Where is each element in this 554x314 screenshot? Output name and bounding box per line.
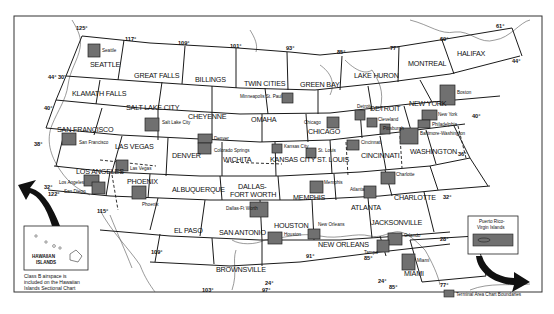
svg-text:Islands Sectional Chart: Islands Sectional Chart — [24, 285, 76, 291]
tac-label: St. Louis — [318, 148, 337, 153]
legend-swatch — [444, 290, 454, 297]
sectional-label: JACKSONVILLE — [371, 218, 423, 227]
tac-label: Charlotte — [396, 172, 415, 177]
sectional-label: LOS ANGELES — [76, 167, 124, 176]
legend-label: Terminal Area Chart Boundaries — [456, 292, 522, 297]
tac-miami[interactable] — [402, 254, 415, 270]
tac-label: Colorado Springs — [214, 148, 250, 153]
degree-label: 117° — [125, 36, 136, 42]
sectional-label: GREEN BAY — [300, 80, 340, 89]
tac-label: Atlanta — [350, 187, 365, 192]
sectional-label: ATLANTA — [351, 203, 381, 212]
tac-new-york[interactable] — [422, 110, 437, 120]
sectional-label: CHICAGO — [308, 127, 341, 136]
tac-label: Cleveland — [378, 117, 399, 122]
tac-phoenix[interactable] — [132, 186, 146, 199]
tac-label: New Orleans — [318, 222, 345, 227]
sectional-label: CINCINNATI — [361, 151, 400, 160]
sectional-label: SAN ANTONIO — [219, 228, 266, 237]
degree-label: 40° — [44, 105, 52, 111]
sectional-label: KANSAS CITY — [270, 155, 316, 164]
degree-label: 125° — [76, 25, 88, 31]
degree-label: 32° — [44, 184, 52, 190]
chart-coverage-map: SEATTLE GREAT FALLS BILLINGS TWIN CITIES… — [0, 0, 554, 314]
tac-minneapolis[interactable] — [282, 93, 293, 103]
sectional-label: BROWNSVILLE — [216, 265, 266, 274]
degree-label: 85° — [389, 284, 397, 290]
sectional-label: OMAHA — [251, 115, 277, 124]
sectional-label: LAKE HURON — [354, 71, 399, 80]
tac-salt-lake-city[interactable] — [145, 118, 159, 131]
degree-label: 101° — [230, 43, 242, 49]
degree-label: 40° — [472, 113, 480, 119]
sectional-label: KLAMATH FALLS — [72, 89, 127, 98]
tac-cincinnati[interactable] — [347, 140, 359, 150]
degree-label: 77° — [390, 45, 398, 51]
sectional-label: EL PASO — [174, 226, 203, 235]
degree-label: 91° — [306, 253, 314, 259]
sectional-label: CHARLOTTE — [394, 193, 436, 202]
sectional-label: BILLINGS — [195, 75, 226, 84]
tac-label: Los Angeles — [59, 180, 85, 185]
svg-text:Puerto Rico-: Puerto Rico- — [479, 219, 505, 224]
tac-detroit[interactable] — [355, 110, 365, 120]
sectional-label: WASHINGTON — [410, 147, 457, 156]
tac-label: New York — [438, 112, 458, 117]
tac-label: Orlando — [404, 233, 421, 238]
tac-orlando[interactable] — [388, 233, 402, 245]
tac-label: Dallas-Ft Worth — [226, 206, 258, 211]
sectional-label: FORT WORTH — [230, 190, 276, 199]
tac-san-diego[interactable] — [92, 182, 105, 194]
degree-label: 44° 30' — [48, 74, 66, 80]
degree-label: 122° — [48, 191, 60, 197]
tac-label: Seattle — [102, 48, 117, 53]
degree-label: 44° — [512, 58, 520, 64]
degree-label: 38° — [34, 141, 42, 147]
tac-kansas-city[interactable] — [272, 144, 282, 153]
tac-philadelphia[interactable] — [418, 120, 430, 128]
sectional-label: SEATTLE — [90, 60, 120, 69]
tac-houston[interactable] — [268, 232, 282, 244]
tac-tampa[interactable] — [377, 240, 389, 252]
tac-label: Chicago — [304, 120, 321, 125]
sectional-label: DENVER — [172, 151, 201, 160]
tac-label: Denver — [214, 136, 229, 141]
tac-label: Houston — [284, 232, 302, 237]
tac-label: Minneapolis St. Paul — [240, 94, 282, 99]
tac-memphis[interactable] — [310, 181, 323, 193]
tac-atlanta[interactable] — [364, 186, 376, 198]
sectional-label: HOUSTON — [274, 221, 308, 230]
degree-label: 36° — [458, 151, 466, 157]
tac-label: San Diego — [64, 189, 86, 194]
degree-label: 93° — [286, 45, 294, 51]
tac-label: Kansas City — [284, 144, 309, 149]
tac-label: Cincinnati — [361, 140, 381, 145]
degree-label: 32° — [443, 194, 451, 200]
sectional-label: SAN FRANCISCO — [57, 125, 114, 134]
sectional-label: PHOENIX — [127, 177, 158, 186]
sectional-label: CHEYENNE — [188, 112, 227, 121]
tac-label: Miami — [417, 258, 429, 263]
sectional-label: MIAMI — [404, 269, 424, 278]
svg-text:Virgin Islands: Virgin Islands — [477, 225, 505, 230]
degree-label: 97° — [262, 287, 270, 293]
tac-label: Memphis — [324, 180, 343, 185]
sectional-label: NEW YORK — [409, 99, 447, 108]
legend: Terminal Area Chart Boundaries — [444, 290, 522, 297]
tac-san-francisco[interactable] — [62, 133, 76, 145]
tac-new-orleans[interactable] — [308, 229, 320, 239]
degree-label: 85° — [337, 49, 345, 55]
sectional-label: WICHITA — [223, 155, 252, 164]
tac-denver[interactable] — [198, 134, 212, 143]
tac-label: San Francisco — [79, 140, 109, 145]
degree-label: 77° — [440, 282, 448, 288]
sectional-label: LAS VEGAS — [115, 142, 154, 151]
sectional-label: TWIN CITIES — [244, 79, 286, 88]
tac-cleveland[interactable] — [367, 118, 377, 127]
sectional-label: ALBUQUERQUE — [172, 185, 225, 194]
sectional-label: HALIFAX — [457, 49, 486, 58]
tac-seattle[interactable] — [88, 44, 100, 57]
tac-label: Detroit — [357, 104, 371, 109]
degree-label: 109° — [178, 40, 190, 46]
tac-charlotte[interactable] — [381, 172, 395, 184]
